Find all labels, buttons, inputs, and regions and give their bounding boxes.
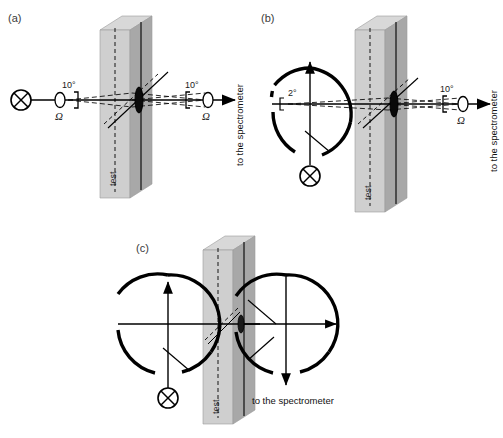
angle-right-b: 10° [440,84,454,94]
angle-right-a: 10° [185,80,199,90]
spectrometer-label-b: to the spectrometer [488,90,499,172]
deflector-left-tick-c [163,348,190,371]
figure-canvas: (a) test [0,0,503,438]
deflector-circle-b [272,68,352,155]
panel-a: (a) test [8,12,245,198]
deflector-tick-b [305,131,330,152]
lens-icon-c [238,315,244,333]
omega-right-b: Ω [457,114,465,126]
angle-left-a: 10° [62,80,76,90]
angle-left-b: 2° [288,88,297,98]
omega-left-a: Ω [55,110,63,122]
source-icon-a [11,90,31,110]
panel-b: (b) test [261,12,499,212]
panel-a-label: (a) [8,12,21,24]
spectrometer-label-c: to the spectrometer [252,395,334,406]
aperture-left-a: 10° Ω [55,80,78,122]
omega-right-a: Ω [202,110,210,122]
source-icon-c [158,372,178,408]
panel-c: (c) test [118,236,338,424]
spectrometer-label-a: to the spectrometer [234,84,245,166]
sample-label-a: test [108,171,118,186]
sample-slab-c: test [203,236,255,424]
panel-b-label: (b) [261,12,274,24]
sample-label-c: test [211,399,221,414]
sample-label-b: test [363,185,373,200]
source-icon-b [300,152,320,186]
lens-icon-a [135,87,143,113]
sample-slab-b: test [355,16,407,212]
lens-icon-b [390,91,398,117]
sample-slab-a: test [100,16,152,198]
panel-c-label: (c) [136,242,149,254]
